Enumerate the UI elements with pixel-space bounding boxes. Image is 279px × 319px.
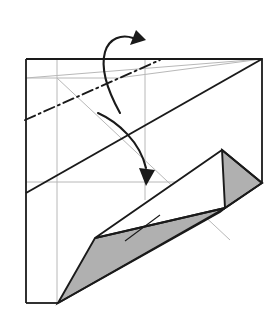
canvas-background (0, 0, 279, 319)
origami-diagram-canvas (0, 0, 279, 319)
origami-figure (0, 0, 279, 319)
